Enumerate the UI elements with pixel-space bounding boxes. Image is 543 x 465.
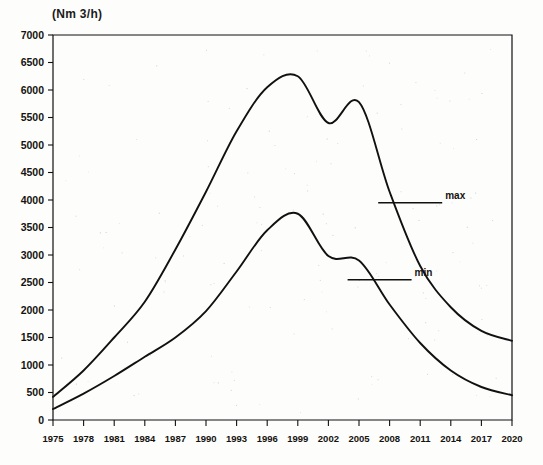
y-axis-tick-label: 5500 (21, 111, 45, 123)
x-axis-tick-label: 1999 (287, 433, 308, 444)
chart-plot: 0500100015002000250030003500400045005000… (0, 0, 543, 465)
chart-series-group (53, 74, 512, 409)
x-axis-tick-label: 1996 (257, 433, 278, 444)
x-axis-tick-label: 2005 (348, 433, 370, 444)
series-line-min (53, 213, 512, 409)
x-axis-tick-label: 1978 (73, 433, 94, 444)
x-axis-tick-label: 2011 (410, 433, 431, 444)
x-axis-tick-label: 2014 (440, 433, 462, 444)
series-annotation-max: max (445, 190, 465, 201)
y-axis-tick-label: 6000 (21, 84, 45, 96)
y-axis-tick-label: 1000 (21, 359, 45, 371)
x-axis-tick-label: 2020 (501, 433, 522, 444)
series-line-max (53, 74, 512, 397)
y-axis-tick-label: 4000 (21, 194, 45, 206)
y-axis-tick-label: 1500 (21, 331, 45, 343)
y-axis-ticks: 0500100015002000250030003500400045005000… (21, 29, 53, 426)
x-axis-ticks: 1975197819811984198719901993199619992002… (42, 420, 522, 444)
x-axis-tick-label: 1984 (134, 433, 156, 444)
x-axis-tick-label: 1975 (42, 433, 64, 444)
x-axis-tick-label: 1981 (104, 433, 126, 444)
y-axis-tick-label: 5000 (21, 139, 45, 151)
y-axis-tick-label: 3000 (21, 249, 45, 261)
x-axis-tick-label: 2002 (318, 433, 339, 444)
y-axis-tick-label: 2500 (21, 276, 45, 288)
y-axis-tick-label: 6500 (21, 56, 45, 68)
x-axis-tick-label: 1993 (226, 433, 247, 444)
chart-container: (Nm 3/h) 0500100015002000250030003500400… (0, 0, 543, 465)
y-axis-tick-label: 4500 (21, 166, 45, 178)
x-axis-tick-label: 1987 (165, 433, 186, 444)
paper-noise-specks (61, 49, 497, 413)
y-axis-tick-label: 3500 (21, 221, 45, 233)
x-axis-tick-label: 1990 (195, 433, 216, 444)
x-axis-tick-label: 2017 (471, 433, 492, 444)
y-axis-tick-label: 0 (38, 414, 44, 426)
series-annotation-min: min (415, 267, 433, 278)
y-axis-tick-label: 2000 (21, 304, 45, 316)
chart-axes (53, 35, 512, 420)
x-axis-tick-label: 2008 (379, 433, 400, 444)
y-axis-tick-label: 500 (26, 386, 44, 398)
y-axis-tick-label: 7000 (21, 29, 45, 41)
